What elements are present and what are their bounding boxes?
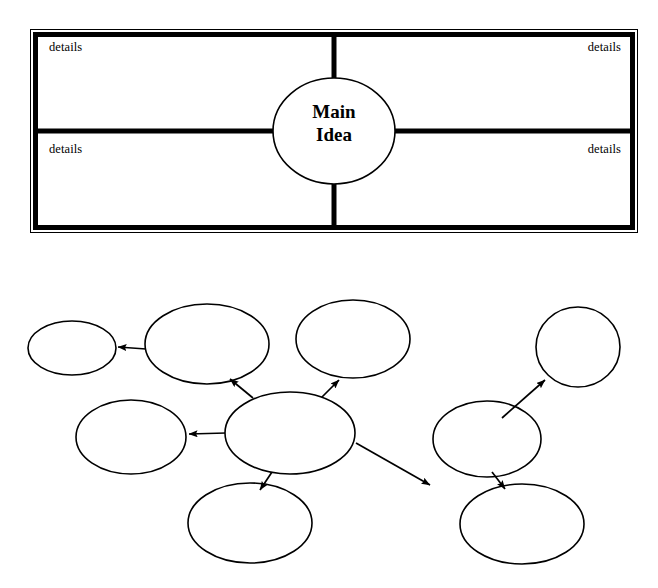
arrow-center-to-upper-left bbox=[230, 379, 253, 398]
worksheet-page: Main Idea details details details detail… bbox=[0, 0, 658, 588]
details-label-bottom-left: details bbox=[49, 142, 82, 156]
details-label-bottom-right: details bbox=[588, 142, 621, 156]
node-mid-left bbox=[76, 400, 186, 474]
arrow-upper-left-to-small-far-left bbox=[118, 347, 146, 349]
node-bottom-left bbox=[188, 483, 312, 563]
four-square-organizer: Main Idea details details details detail… bbox=[30, 29, 638, 233]
node-upper-center bbox=[296, 300, 410, 378]
arrow-center-to-mid-right bbox=[356, 443, 430, 485]
arrow-center-to-upper-center bbox=[321, 380, 339, 398]
node-upper-left bbox=[145, 304, 269, 384]
details-label-top-left: details bbox=[49, 40, 82, 54]
node-upper-right bbox=[536, 307, 620, 387]
arrow-center-to-mid-left bbox=[189, 433, 226, 434]
center-node-main-idea bbox=[225, 392, 355, 474]
main-idea-ellipse bbox=[273, 78, 395, 184]
concept-map-graphic bbox=[0, 280, 658, 588]
details-label-top-right: details bbox=[588, 40, 621, 54]
concept-map-organizer: Main Idea bbox=[0, 280, 658, 588]
four-square-frame-graphic bbox=[30, 29, 638, 233]
node-mid-right bbox=[433, 401, 541, 477]
node-small-far-left bbox=[28, 321, 116, 375]
node-bottom-right bbox=[460, 484, 584, 564]
